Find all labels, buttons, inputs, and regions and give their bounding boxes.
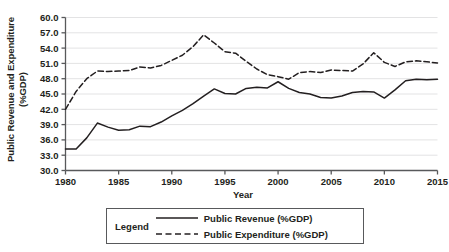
x-tick-label: 2000 — [268, 176, 289, 187]
chart-legend: Legend Public Revenue (%GDP) Public Expe… — [106, 208, 364, 244]
data-series-layer — [66, 35, 438, 149]
legend-swatch-dashed-line — [155, 229, 199, 239]
legend-label-public-revenue: Public Revenue (%GDP) — [204, 213, 313, 224]
x-tick-label: 2005 — [321, 176, 343, 187]
gridlines — [66, 18, 438, 156]
y-tick-label: 54.0 — [40, 43, 59, 54]
x-tick-label: 2010 — [374, 176, 395, 187]
x-tick-label: 2015 — [427, 176, 449, 187]
series-line-solid — [66, 79, 438, 149]
chart-figure: Public Revenue and Expenditure (%GDP) 30… — [0, 0, 449, 252]
y-tick-label: 45.0 — [40, 88, 59, 99]
legend-item-public-expenditure: Public Expenditure (%GDP) — [155, 228, 328, 241]
x-tick-label: 1995 — [214, 176, 236, 187]
x-tick-label: 1985 — [108, 176, 130, 187]
y-tick-label: 33.0 — [40, 150, 59, 161]
legend-item-public-revenue: Public Revenue (%GDP) — [155, 212, 328, 225]
y-tick-label: 48.0 — [40, 73, 59, 84]
series-line-dashed — [66, 35, 438, 109]
y-tick-label: 42.0 — [40, 104, 59, 115]
y-tick-label: 30.0 — [40, 165, 59, 176]
x-tick-label: 1990 — [161, 176, 182, 187]
x-axis-title: Year — [233, 189, 253, 200]
y-tick-label: 57.0 — [40, 27, 59, 38]
y-tick-label: 36.0 — [40, 134, 59, 145]
x-axis-ticks: 19801985199019952000200520102015 — [55, 171, 449, 188]
legend-swatch-solid-line — [155, 213, 199, 223]
y-tick-label: 51.0 — [40, 58, 59, 69]
y-axis-ticks: 30.033.036.039.042.045.048.051.054.057.0… — [40, 12, 66, 176]
plot-area: 30.033.036.039.042.045.048.051.054.057.0… — [0, 0, 449, 205]
y-tick-label: 39.0 — [40, 119, 59, 130]
y-tick-label: 60.0 — [40, 12, 59, 23]
x-tick-label: 1980 — [55, 176, 76, 187]
legend-label-public-expenditure: Public Expenditure (%GDP) — [204, 229, 328, 240]
legend-title: Legend — [107, 221, 155, 232]
